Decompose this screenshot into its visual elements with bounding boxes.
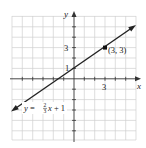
equation-label: y = 2 3 x + 1 [22, 102, 67, 114]
point-marker [103, 46, 107, 50]
y-axis-arrow-icon [72, 11, 77, 17]
y-tick-label-3: 3 [64, 43, 68, 53]
svg-text:3: 3 [44, 108, 47, 114]
point-label: (3, 3) [108, 45, 127, 55]
y-axis-label: y [63, 9, 68, 19]
svg-text:x + 1: x + 1 [47, 103, 65, 113]
coordinate-graph: y x 3 3 1 (3, 3) y = 2 3 x + 1 [0, 0, 146, 148]
svg-text:y =: y = [23, 103, 35, 113]
x-axis-label: x [136, 81, 141, 91]
line-arrow-end-icon [128, 25, 136, 32]
x-tick-label-3: 3 [102, 82, 106, 92]
axes [10, 14, 138, 142]
